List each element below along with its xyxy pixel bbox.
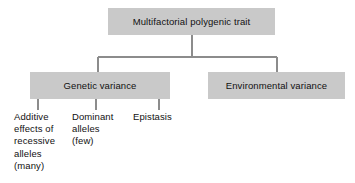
node-environmental-variance: Environmental variance — [208, 72, 345, 99]
node-label-root: Multifactorial polygenic trait — [133, 16, 251, 27]
node-genetic-variance: Genetic variance — [30, 72, 170, 99]
leaf-dominant-line-2: alleles — [72, 123, 130, 135]
leaf-dominant-line-3: (few) — [72, 135, 130, 147]
leaf-epistasis: Epistasis — [133, 111, 195, 123]
leaf-additive-line-5: (many) — [14, 160, 70, 172]
leaf-additive-line-1: Additive — [14, 111, 70, 123]
leaf-epistasis-line-1: Epistasis — [133, 111, 195, 123]
leaf-dominant-line-1: Dominant — [72, 111, 130, 123]
leaf-additive-line-3: recessive — [14, 135, 70, 147]
leaf-additive-line-2: effects of — [14, 123, 70, 135]
leaf-additive-effects-recessive-alleles: Additive effects of recessive alleles (m… — [14, 111, 70, 172]
leaf-dominant-alleles: Dominant alleles (few) — [72, 111, 130, 148]
node-label-genetic-variance: Genetic variance — [64, 80, 137, 91]
node-label-environmental-variance: Environmental variance — [226, 80, 327, 91]
leaf-additive-line-4: alleles — [14, 148, 70, 160]
polygenic-trait-diagram: Multifactorial polygenic trait Genetic v… — [0, 0, 355, 183]
node-multifactorial-polygenic-trait: Multifactorial polygenic trait — [108, 8, 275, 35]
